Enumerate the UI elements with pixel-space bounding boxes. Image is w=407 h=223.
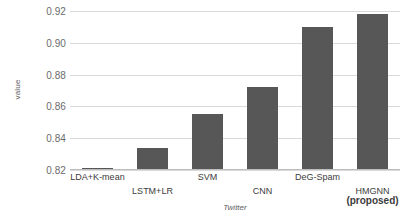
x-category-label-text: LDA+K-mean — [70, 172, 124, 182]
bar — [247, 87, 279, 170]
bar — [137, 148, 169, 170]
x-category-label: LSTM+LR — [132, 186, 173, 196]
y-tick-label: 0.82 — [32, 165, 66, 176]
gridline — [70, 170, 400, 171]
y-tick-label: 0.86 — [32, 101, 66, 112]
x-category-label-text: SVM — [198, 172, 218, 182]
y-axis-title-text: value — [13, 79, 22, 99]
y-tick-label: 0.92 — [32, 6, 66, 17]
x-category-label: CNN — [253, 186, 273, 196]
x-category-label: DeG-Spam — [295, 172, 340, 182]
y-tick-label: 0.88 — [32, 69, 66, 80]
plot-area — [70, 11, 400, 170]
bar — [357, 14, 389, 170]
bar-chart: value 0.820.840.860.880.900.92 LDA+K-mea… — [0, 0, 407, 223]
y-tick-label: 0.84 — [32, 133, 66, 144]
x-category-label: LDA+K-mean — [70, 172, 124, 182]
bar — [192, 114, 224, 170]
y-axis-tick-labels: 0.820.840.860.880.900.92 — [28, 11, 66, 170]
x-axis-line — [70, 169, 400, 170]
y-tick-label: 0.90 — [32, 37, 66, 48]
x-category-label-text: LSTM+LR — [132, 186, 173, 196]
bar — [302, 27, 334, 170]
bars-layer — [70, 11, 400, 170]
x-category-label-text: DeG-Spam — [295, 172, 340, 182]
x-axis-title: Twitter — [70, 203, 400, 212]
x-category-label: SVM — [198, 172, 218, 182]
x-category-label-text: CNN — [253, 186, 273, 196]
